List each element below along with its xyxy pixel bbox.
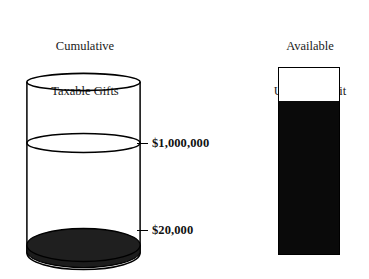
cumulative-gifts-cylinder — [26, 73, 141, 262]
right-title-line-1: Available — [240, 39, 369, 54]
tick-mark-icon — [137, 143, 148, 144]
cylinder-top-rim — [27, 73, 140, 90]
unified-credit-bar — [278, 67, 340, 255]
cylinder-level-line-one-million — [27, 134, 140, 153]
callout-twenty-thousand: $20,000 — [137, 223, 193, 238]
unified-credit-bar-empty-segment — [279, 68, 339, 101]
callout-one-million: $1,000,000 — [137, 136, 209, 151]
cylinder-fill-surface — [27, 229, 140, 262]
unified-credit-bar-filled-segment — [279, 101, 339, 254]
callout-twenty-thousand-label: $20,000 — [152, 223, 193, 238]
tick-mark-icon — [137, 230, 148, 231]
callout-one-million-label: $1,000,000 — [152, 136, 209, 151]
figure-canvas: Cumulative Taxable Gifts Available Unifi… — [0, 0, 369, 279]
left-title-line-1: Cumulative — [0, 39, 170, 54]
